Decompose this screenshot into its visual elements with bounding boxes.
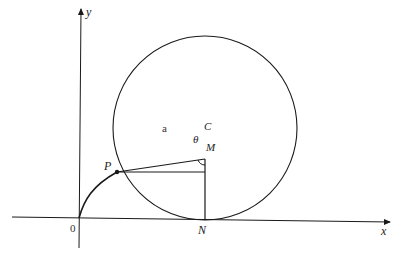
segment-pc-label: a [162, 122, 167, 134]
origin-label: 0 [70, 222, 76, 234]
point-n-label: N [197, 223, 207, 237]
y-axis-label: y [85, 5, 92, 19]
cycloid-curve [79, 172, 117, 218]
diagram-canvas: y x 0 P C M N a θ [0, 0, 397, 257]
point-p-label: P [103, 159, 112, 173]
angle-theta-label: θ [193, 133, 199, 145]
point-p-dot [115, 170, 119, 174]
angle-theta-arc [198, 160, 205, 165]
diagram-svg: y x 0 P C M N a θ [0, 0, 397, 257]
x-axis-label: x [380, 224, 387, 238]
point-m-label: M [205, 141, 216, 153]
segment-pc [117, 159, 205, 172]
point-c-label: C [204, 120, 212, 132]
